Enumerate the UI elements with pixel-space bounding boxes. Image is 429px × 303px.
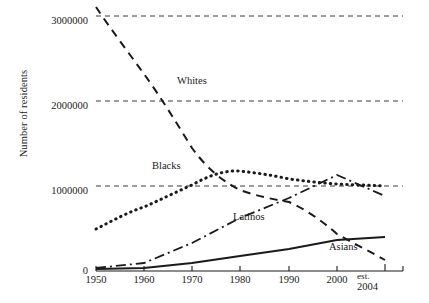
x-tick-1970: 1970 [182, 274, 203, 285]
series-label-whites: Whites [177, 75, 207, 86]
series-line-whites [96, 7, 385, 260]
x-tick-est-prefix: est. [357, 271, 370, 281]
x-tick-est-year: 2004 [357, 281, 378, 292]
chart-canvas [0, 0, 429, 303]
gridlines [96, 16, 403, 186]
series-label-latinos: Latinos [233, 211, 265, 222]
series-label-blacks: Blacks [152, 160, 181, 171]
x-tick-1950: 1950 [86, 274, 107, 285]
x-tick-1980: 1980 [230, 274, 251, 285]
population-line-chart: Number of residents 3000000 2000000 1000… [0, 0, 429, 303]
x-tick-1960: 1960 [134, 274, 155, 285]
x-tick-est-2004: est. 2004 [357, 272, 378, 292]
series-label-asians: Asians [329, 241, 358, 252]
x-tick-1990: 1990 [279, 274, 300, 285]
x-tick-2000: 2000 [327, 274, 348, 285]
